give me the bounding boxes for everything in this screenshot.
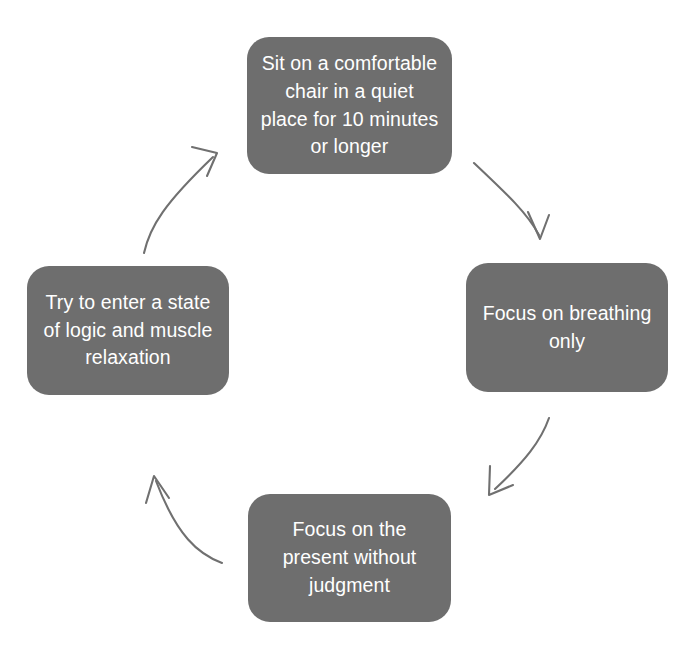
cycle-step-4-label: Try to enter a state of logic and muscle… bbox=[44, 289, 213, 372]
cycle-step-1-sit-comfortable[interactable]: Sit on a comfortable chair in a quiet pl… bbox=[247, 37, 452, 174]
cycle-step-4-logic-muscle-relaxation[interactable]: Try to enter a state of logic and muscle… bbox=[27, 266, 229, 395]
arrow-left-to-top bbox=[144, 147, 217, 253]
cycle-step-3-focus-present[interactable]: Focus on the present without judgment bbox=[248, 494, 451, 622]
arrow-top-to-right bbox=[474, 163, 549, 239]
arrow-right-to-bottom bbox=[489, 418, 549, 495]
cycle-step-2-focus-breathing[interactable]: Focus on breathing only bbox=[466, 263, 668, 392]
diagram-canvas: Sit on a comfortable chair in a quiet pl… bbox=[0, 0, 691, 648]
arrow-bottom-to-left bbox=[146, 476, 222, 563]
cycle-step-2-label: Focus on breathing only bbox=[483, 300, 652, 355]
cycle-step-1-label: Sit on a comfortable chair in a quiet pl… bbox=[261, 50, 439, 161]
cycle-step-3-label: Focus on the present without judgment bbox=[283, 516, 417, 599]
